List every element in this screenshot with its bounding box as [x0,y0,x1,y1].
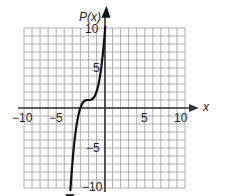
x-tick-10: 10 [174,111,188,125]
x-tick-neg5: −5 [49,111,63,125]
y-tick-neg5: −5 [86,141,100,155]
cubic-graph: x P(x) −10 −5 5 10 10 5 −5 −10 [0,0,226,196]
y-tick-5: 5 [93,61,100,75]
curve-arrow-down-icon [65,194,74,196]
x-tick-5: 5 [141,111,148,125]
y-tick-neg10: −10 [82,180,103,194]
curve-arrow-up-icon [101,6,110,18]
x-tick-neg10: −10 [12,111,33,125]
x-axis-arrow-icon [189,104,199,112]
x-axis-label: x [202,100,210,114]
y-tick-10: 10 [85,22,99,36]
